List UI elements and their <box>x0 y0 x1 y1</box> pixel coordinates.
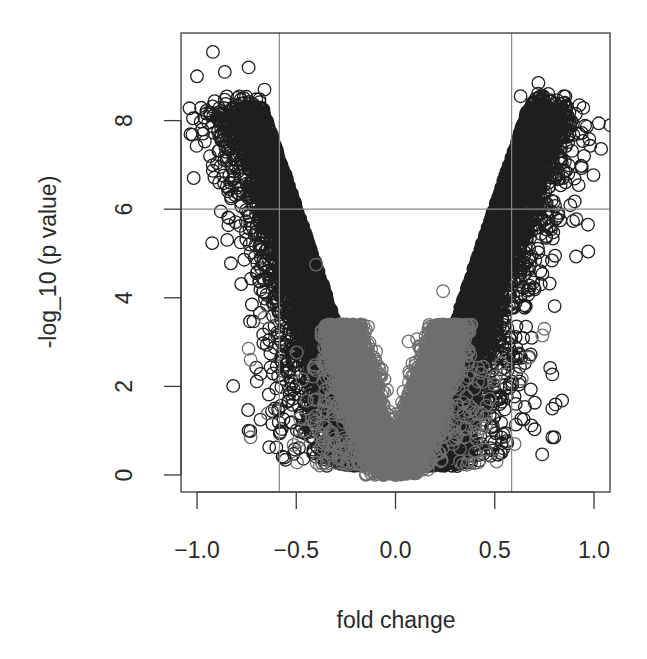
y-tick-label: 4 <box>111 291 137 304</box>
y-tick-label: 8 <box>111 114 137 127</box>
x-tick-label: 1.0 <box>578 537 610 563</box>
volcano-plot: −1.0−0.50.00.51.0 02468 fold change -log… <box>0 0 647 659</box>
y-tick-label: 0 <box>111 469 137 482</box>
x-axis: −1.0−0.50.00.51.0 <box>174 492 610 563</box>
x-axis-title: fold change <box>337 607 456 633</box>
x-tick-label: 0.5 <box>479 537 511 563</box>
data-points <box>158 46 616 482</box>
y-axis: 02468 <box>111 114 181 481</box>
x-tick-label: −1.0 <box>174 537 219 563</box>
y-axis-title: -log_10 (p value) <box>35 176 61 349</box>
y-tick-label: 6 <box>111 203 137 216</box>
y-tick-label: 2 <box>111 380 137 393</box>
x-tick-label: −0.5 <box>274 537 319 563</box>
x-tick-label: 0.0 <box>380 537 412 563</box>
